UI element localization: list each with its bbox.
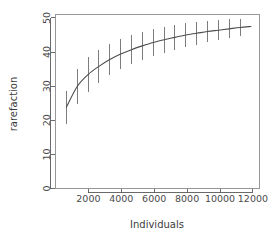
x-tick-label: 12000: [238, 193, 268, 204]
y-tick-label: 0: [41, 185, 52, 191]
plot-box-border: [56, 15, 260, 189]
y-axis-title: rarefaction: [8, 77, 19, 132]
x-tick-label: 10000: [205, 193, 235, 204]
y-axis: 01020304050: [41, 12, 55, 192]
x-axis: 20004000600080001000012000: [76, 189, 268, 204]
chart-canvas: 01020304050 20004000600080001000012000 I…: [0, 0, 272, 242]
rarefaction-chart-figure: 01020304050 20004000600080001000012000 I…: [0, 0, 272, 242]
y-tick-label: 30: [41, 80, 52, 92]
x-axis-title: Individuals: [130, 219, 184, 230]
y-tick-label: 20: [41, 114, 52, 126]
y-tick-label: 40: [41, 46, 52, 58]
plot-frame: [56, 15, 260, 189]
x-tick-label: 2000: [76, 193, 100, 204]
x-tick-label: 8000: [175, 193, 199, 204]
y-tick-label: 50: [41, 12, 52, 24]
y-tick-label: 10: [41, 148, 52, 160]
x-tick-label: 4000: [109, 193, 133, 204]
rarefaction-curve: [66, 26, 251, 107]
x-tick-label: 6000: [142, 193, 166, 204]
